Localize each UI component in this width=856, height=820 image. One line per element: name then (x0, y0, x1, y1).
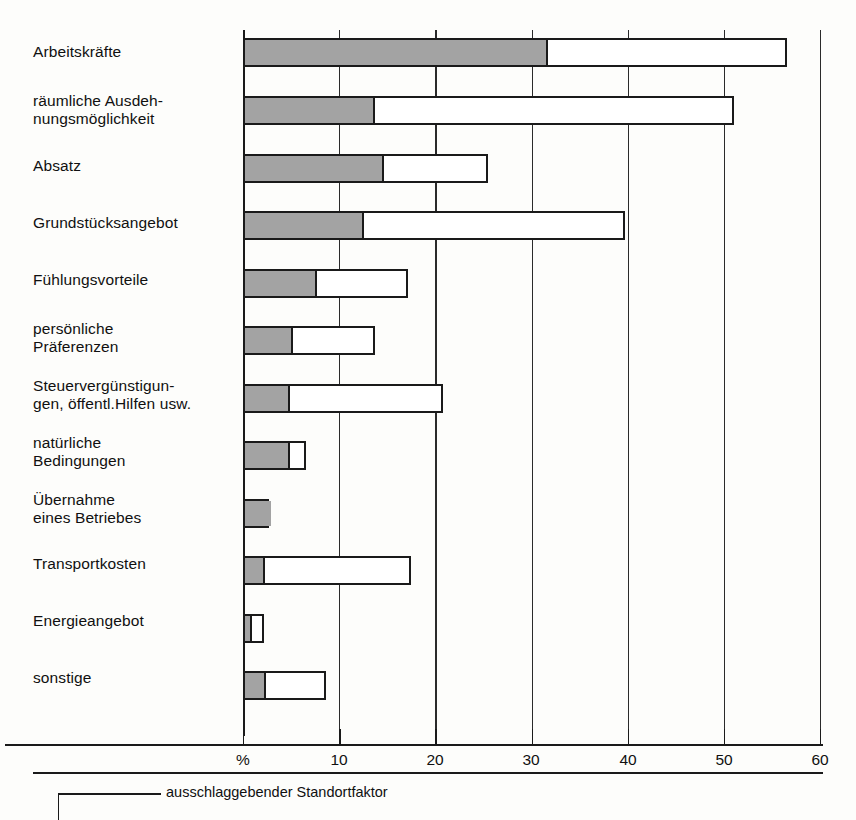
category-label: Energieangebot (33, 612, 238, 630)
bar-row (243, 556, 411, 585)
bar-segment-primary (245, 443, 290, 468)
bar-row (243, 671, 326, 700)
x-tick-60 (820, 729, 821, 746)
x-tick-10 (339, 729, 340, 746)
bar-row (243, 154, 488, 183)
category-label: persönliche Präferenzen (33, 320, 238, 356)
bar-row (243, 269, 408, 298)
bar-segment-primary (245, 558, 265, 583)
gridline-60 (820, 30, 821, 736)
gridline-30 (532, 30, 533, 736)
x-tick-50 (724, 729, 725, 746)
bar-row (243, 614, 264, 643)
bar-segment-primary (245, 386, 290, 411)
x-tick-0 (243, 729, 244, 746)
bar-segment-primary (245, 98, 375, 123)
category-label: sonstige (33, 669, 238, 687)
bar-segment-primary (245, 40, 548, 65)
plot-area (243, 30, 820, 736)
bar-row (243, 38, 787, 67)
bar-row (243, 211, 625, 240)
category-label: Absatz (33, 157, 238, 175)
x-tick-label-60: 60 (800, 751, 840, 769)
x-tick-20 (435, 729, 436, 746)
bar-segment-primary (245, 673, 266, 698)
bar-row (243, 499, 269, 528)
bar-row (243, 384, 443, 413)
bar-segment-primary (245, 616, 252, 641)
legend-swatch-box (58, 793, 86, 820)
gridline-10 (339, 30, 340, 736)
category-label: Arbeitskräfte (33, 43, 238, 61)
bar-segment-primary (245, 156, 384, 181)
bar-segment-primary (245, 328, 293, 353)
category-label: natürliche Bedingungen (33, 434, 238, 470)
bar-row (243, 96, 734, 125)
category-label: Steuervergünstigun- gen, öffentl.Hilfen … (33, 377, 238, 413)
x-tick-label-20: 20 (415, 751, 455, 769)
gridline-40 (628, 30, 629, 736)
x-axis-line (5, 744, 823, 746)
legend-divider (33, 772, 823, 774)
bar-chart: Arbeitskräfte räumliche Ausdeh- nungsmög… (0, 0, 856, 820)
category-label: räumliche Ausdeh- nungsmöglichkeit (33, 92, 238, 128)
gridline-50 (724, 30, 725, 736)
x-tick-label-50: 50 (704, 751, 744, 769)
category-label: Transportkosten (33, 555, 238, 573)
gridline-20 (435, 30, 436, 736)
x-tick-label-10: 10 (319, 751, 359, 769)
x-tick-30 (532, 729, 533, 746)
x-tick-label-0: % (223, 751, 263, 769)
category-label: Übernahme eines Betriebes (33, 491, 238, 527)
category-label: Fühlungsvorteile (33, 271, 238, 289)
bar-row (243, 441, 306, 470)
legend-label: ausschlaggebender Standortfaktor (166, 784, 388, 800)
x-tick-label-30: 30 (511, 751, 551, 769)
category-label: Grundstücksangebot (33, 214, 238, 232)
bar-segment-primary (245, 501, 271, 526)
x-tick-label-40: 40 (608, 751, 648, 769)
x-tick-40 (628, 729, 629, 746)
bar-segment-primary (245, 271, 317, 296)
bar-segment-primary (245, 213, 364, 238)
bar-row (243, 326, 375, 355)
legend-leader-line (58, 793, 161, 795)
